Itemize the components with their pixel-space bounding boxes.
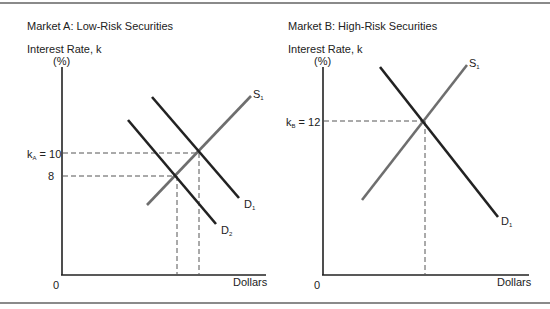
chart-b-plot [322,65,529,275]
chart-a-plot [61,67,266,275]
chart-b-supply-s1 [362,65,467,200]
chart-a-demand-d2 [128,120,216,224]
chart-a-demand-d1 [152,97,239,198]
chart-b-guides [324,121,425,274]
charts-plot-area [0,0,550,309]
chart-b-demand-d1 [380,67,498,217]
